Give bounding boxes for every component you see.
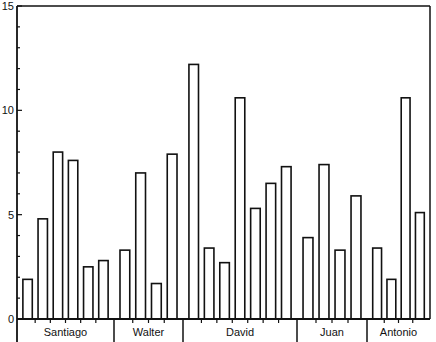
bar <box>189 64 199 319</box>
bar <box>220 263 230 319</box>
y-tick-label: 5 <box>8 209 14 221</box>
bar <box>351 196 361 319</box>
bar <box>68 160 77 319</box>
bars <box>23 64 424 319</box>
bar <box>303 238 313 319</box>
bar <box>373 248 382 319</box>
x-category-label: Antonio <box>380 326 417 338</box>
bar-chart: 051015 SantiagoWalterDavidJuanAntonio <box>0 0 436 342</box>
y-tick-label: 10 <box>2 104 14 116</box>
y-axis: 051015 <box>2 0 22 342</box>
bar <box>136 173 146 319</box>
bar <box>120 250 130 319</box>
bar <box>84 267 93 319</box>
bar <box>387 279 396 319</box>
bar <box>335 250 345 319</box>
bar <box>38 219 47 319</box>
y-tick-label: 15 <box>2 0 14 12</box>
bar <box>235 98 245 319</box>
x-axis: SantiagoWalterDavidJuanAntonio <box>17 319 430 342</box>
bar <box>319 165 329 319</box>
bar <box>151 284 161 319</box>
x-category-label: David <box>226 326 254 338</box>
bar <box>401 98 410 319</box>
bar-group-walter <box>120 154 177 319</box>
bar-group-juan <box>303 165 361 319</box>
bar-group-antonio <box>373 98 425 319</box>
x-category-label: Santiago <box>44 326 87 338</box>
bar-group-david <box>189 64 291 319</box>
bar <box>53 152 62 319</box>
bar <box>251 208 261 319</box>
bar <box>282 167 292 319</box>
y-tick-label: 0 <box>8 313 14 325</box>
bar <box>23 279 32 319</box>
bar <box>167 154 177 319</box>
bar <box>415 213 424 319</box>
x-category-label: Juan <box>320 326 344 338</box>
bar <box>99 261 108 319</box>
bar <box>266 183 276 319</box>
bar-group-santiago <box>23 152 108 319</box>
x-category-label: Walter <box>133 326 165 338</box>
bar <box>204 248 214 319</box>
